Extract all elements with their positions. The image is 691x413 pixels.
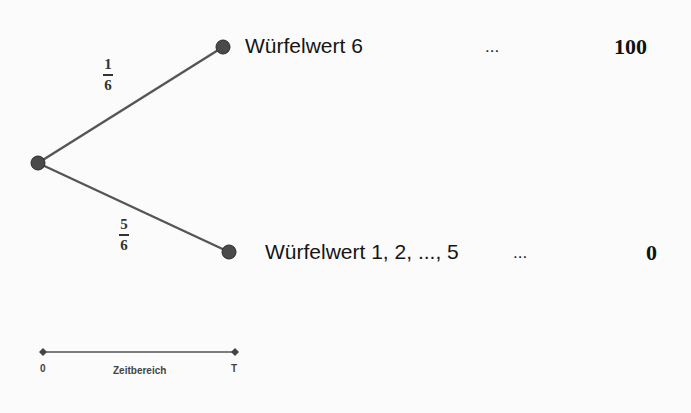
payoff-lower: 0 (646, 240, 657, 266)
probability-upper-numerator: 1 (104, 57, 112, 72)
fraction-bar (103, 74, 113, 76)
branch-edge-upper (38, 47, 223, 163)
outcome-lower-label: Würfelwert 1, 2, ..., 5 (265, 240, 459, 264)
ellipsis-upper: ... (485, 37, 499, 57)
timeline-end-label: T (231, 363, 237, 374)
ellipsis-lower: ... (513, 243, 527, 263)
probability-lower-denominator: 6 (120, 238, 128, 253)
outcome-upper-label: Würfelwert 6 (245, 34, 363, 58)
timeline-end-marker (231, 348, 239, 356)
lower-outcome-node (222, 245, 236, 259)
timeline-start-label: 0 (40, 363, 46, 374)
timeline-caption: Zeitbereich (113, 365, 166, 376)
root-node (31, 156, 45, 170)
upper-outcome-node (216, 40, 230, 54)
probability-upper: 1 6 (103, 57, 113, 93)
probability-lower: 5 6 (119, 217, 129, 253)
probability-upper-denominator: 6 (104, 78, 112, 93)
timeline-start-marker (39, 348, 47, 356)
branch-edge-lower (38, 163, 229, 252)
fraction-bar (119, 234, 129, 236)
payoff-upper: 100 (614, 34, 647, 60)
probability-lower-numerator: 5 (120, 217, 128, 232)
